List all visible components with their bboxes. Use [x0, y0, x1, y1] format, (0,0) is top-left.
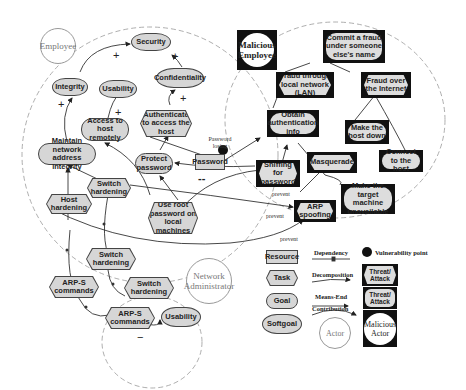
prevent-label-1: prevent: [272, 191, 290, 197]
task-arp-commands-admin-2[interactable]: ARP-S commands: [105, 307, 155, 329]
softgoal-usability-admin[interactable]: Usability: [161, 307, 201, 327]
threat-commit-fraud[interactable]: Commit a fraud under someone else's name: [323, 30, 385, 63]
actor-employee[interactable]: Employee: [40, 28, 76, 64]
minus-sign: −: [137, 331, 143, 343]
task-arp-commands-admin-1[interactable]: ARP-S commands: [49, 276, 99, 298]
goal-maintain-network-integrity[interactable]: Maintain network address integrity: [38, 143, 96, 165]
plus-sign: +: [115, 106, 121, 118]
threat-make-host-down[interactable]: Make the host down: [345, 120, 389, 144]
plus-sign: +: [180, 92, 186, 104]
threat-fraud-lan[interactable]: Fraud through local network (LAN): [276, 72, 334, 98]
plus-sign: +: [113, 49, 119, 61]
softgoal-integrity[interactable]: Integrity: [52, 78, 88, 96]
prevent-label-2: prevent: [266, 213, 284, 219]
legend-softgoal: Softgoal: [262, 314, 302, 334]
legend-threat-goal: Threat/ Attack: [363, 287, 397, 309]
legend-decomposition-label: Decomposition: [312, 271, 353, 278]
legend-means-end-label: Means-End: [315, 293, 347, 300]
actor-malicious-employee[interactable]: Malicious Employee: [237, 30, 277, 70]
threat-masquerade[interactable]: Masquerade: [307, 152, 357, 173]
threat-connect-host[interactable]: Connect to the host: [379, 150, 423, 172]
double-minus-sign: --: [198, 172, 205, 184]
actor-network-admin[interactable]: Network Administrator: [186, 258, 232, 304]
legend-vulnerability-icon: [362, 247, 372, 257]
task-authenticate[interactable]: Authenticate to access the host: [140, 110, 192, 137]
task-switch-hardening-admin-1[interactable]: Switch hardening: [86, 248, 136, 270]
threat-arp-spoofing[interactable]: ARP spoofing: [294, 200, 336, 222]
plus-sign: +: [172, 50, 178, 62]
softgoal-usability[interactable]: Usability: [99, 80, 137, 98]
threat-make-unavailable[interactable]: Make the target machine unavailable: [341, 184, 395, 214]
legend-contribution-label: Contribution: [312, 305, 348, 312]
prevent-label-3: prevent: [280, 236, 298, 242]
legend-goal: Goal: [266, 293, 298, 309]
task-switch-hardening-admin-2[interactable]: Switch hardening: [124, 277, 174, 299]
password-losing-label: Password losing: [206, 136, 234, 150]
threat-fraud-internet[interactable]: Fraud over the Internet: [361, 72, 411, 98]
softgoal-confidentiality[interactable]: Confidentiality: [156, 68, 204, 88]
legend-dependency-label: Dependency: [314, 249, 348, 256]
legend-vulnerability-label: Vulnerability point: [375, 249, 428, 256]
malicious-employee-label: Malicious Employee: [240, 33, 274, 67]
goal-protect-password[interactable]: Protect password: [135, 153, 173, 174]
legend-threat-task: Threat/ Attack: [362, 264, 398, 286]
task-switch-hardening[interactable]: Switch hardening: [87, 178, 131, 198]
task-host-hardening[interactable]: Host hardening: [46, 194, 92, 214]
legend-actor: Actor: [319, 317, 351, 349]
threat-obtain-auth-info[interactable]: Obtain authentication info: [267, 110, 319, 137]
threat-sniffing[interactable]: Sniffing for password: [256, 160, 300, 187]
softgoal-security[interactable]: Security: [131, 33, 171, 51]
task-use-root-password[interactable]: Use root password on local machines: [148, 202, 198, 234]
legend-task: Task: [266, 270, 298, 286]
legend-malicious-actor: Malicious Actor: [363, 310, 397, 347]
legend-resource: Resource: [266, 250, 298, 264]
resource-password[interactable]: Password: [195, 154, 225, 170]
plus-sign: +: [58, 98, 64, 110]
